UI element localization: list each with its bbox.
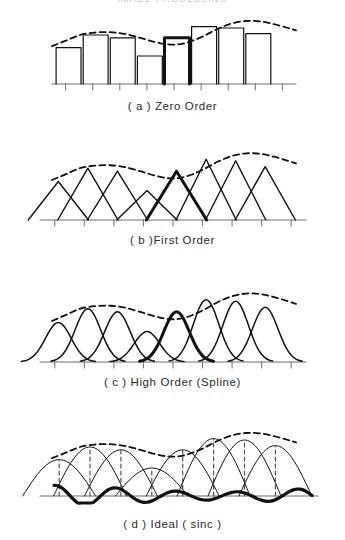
triangle-kernel (235, 167, 295, 220)
sample-bar (219, 28, 244, 84)
sample-bar (192, 27, 217, 84)
sample-bar (56, 48, 81, 84)
panel-first-order: ( b )First Order (0, 140, 345, 246)
panel-ideal-sinc: ( d ) Ideal ( sinc ) (0, 420, 345, 530)
sample-bar (137, 56, 162, 84)
sample-bar (246, 34, 271, 84)
plot-zero-order (0, 8, 345, 96)
caption-high-order-spline: ( c ) High Order (Spline) (0, 376, 345, 388)
sample-bar (83, 35, 108, 84)
caption-first-order: ( b )First Order (0, 234, 345, 246)
dashed-original-signal (52, 293, 296, 321)
triangle-kernel (117, 190, 177, 220)
cropped-header-strip: IMAGE PROCESSING (0, 0, 345, 7)
dashed-original-signal (52, 433, 296, 458)
highlighted-triangle-kernel (146, 171, 206, 220)
triangle-kernel (28, 182, 88, 221)
triangle-kernel (206, 161, 266, 220)
spline-kernel (21, 322, 95, 361)
plot-svg-first-order (0, 140, 345, 228)
caption-zero-order: ( a ) Zero Order (0, 100, 345, 112)
highlighted-spline-kernel (140, 312, 214, 361)
triangle-kernel (58, 168, 118, 220)
panel-high-order-spline: ( c ) High Order (Spline) (0, 280, 345, 388)
caption-ideal-sinc: ( d ) Ideal ( sinc ) (0, 518, 345, 530)
spline-kernel (80, 312, 154, 361)
sample-bar (110, 38, 135, 84)
spline-kernel (228, 307, 302, 361)
panel-zero-order: ( a ) Zero Order (0, 8, 345, 112)
header-text: IMAGE PROCESSING (0, 0, 345, 4)
triangle-kernel (87, 171, 147, 220)
plot-svg-zero-order (0, 8, 345, 96)
plot-svg-high-order-spline (0, 280, 345, 370)
plot-first-order (0, 140, 345, 228)
plot-high-order-spline (0, 280, 345, 370)
plot-svg-ideal-sinc (0, 420, 345, 512)
interpolation-kernels-figure: IMAGE PROCESSING ( a ) Zero Order ( b )F… (0, 0, 345, 540)
plot-ideal-sinc (0, 420, 345, 512)
